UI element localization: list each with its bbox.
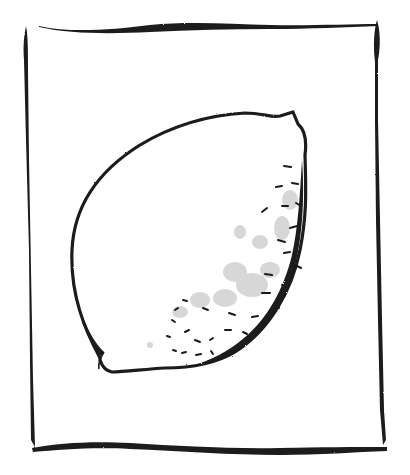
lemon: [72, 112, 306, 372]
lemon-shadow-edge: [190, 160, 303, 367]
frame-top-edge: [39, 23, 378, 33]
lemon-texture: [147, 190, 298, 348]
frame-left-edge: [24, 26, 35, 447]
frame: [24, 20, 387, 455]
lemon-outline: [72, 112, 306, 372]
frame-right-edge: [374, 20, 386, 445]
lemon-left-shadow: [82, 320, 104, 356]
lemon-sketch: Hand-drawn ink sketch of a lemon inside …: [0, 0, 410, 475]
frame-bottom-edge: [32, 442, 387, 455]
lemon-speckles: [167, 166, 301, 355]
